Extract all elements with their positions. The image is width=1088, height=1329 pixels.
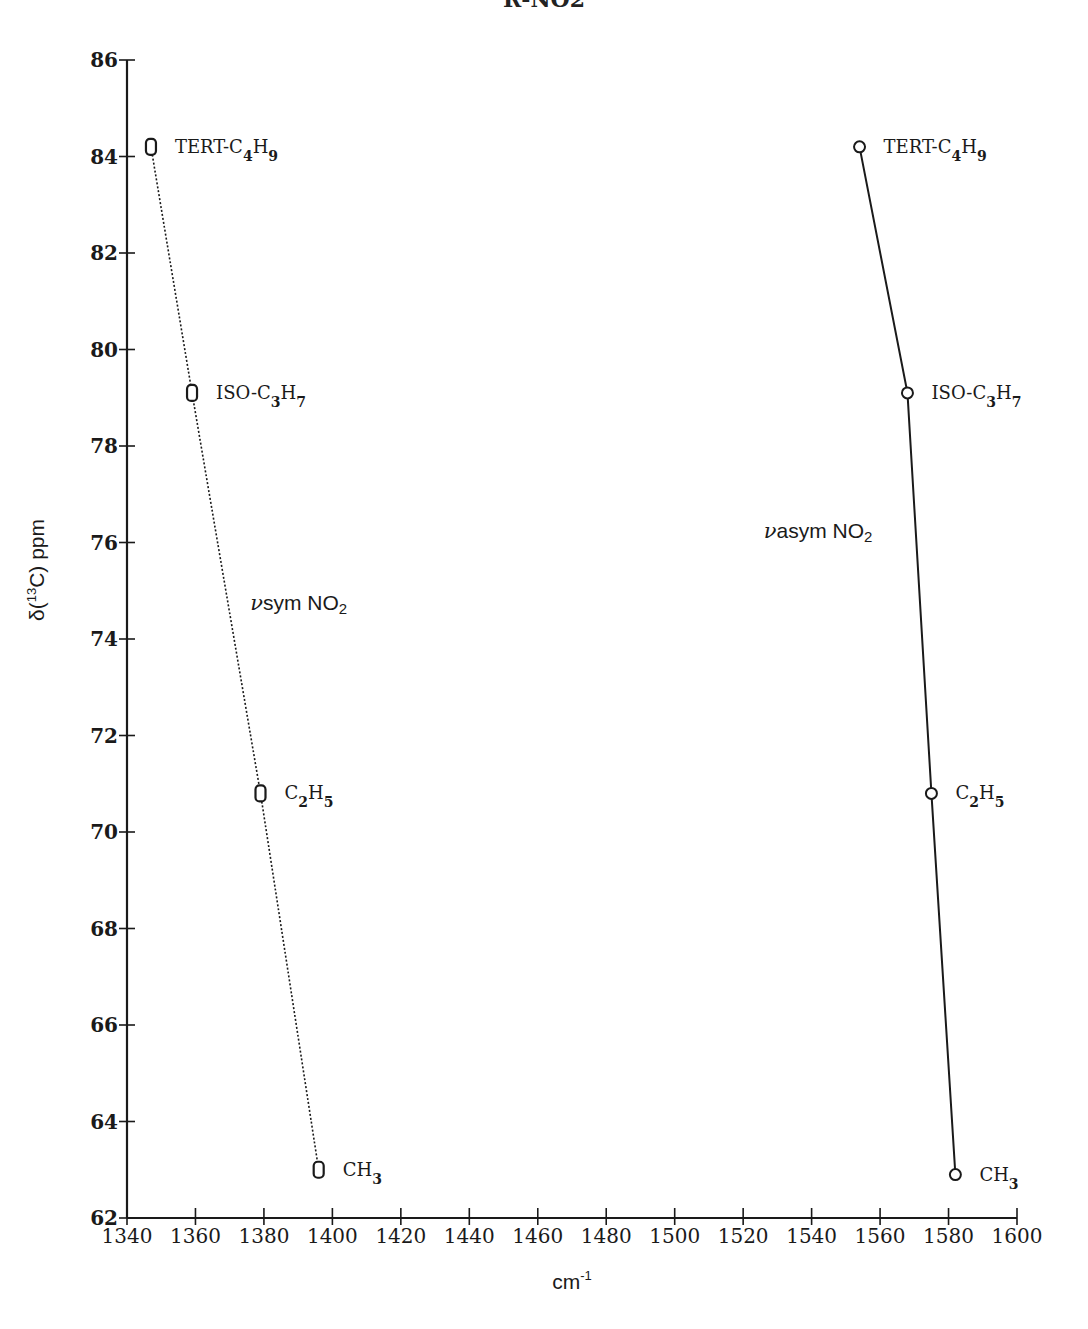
data-point-marker <box>146 139 156 155</box>
data-point-marker <box>902 387 913 398</box>
x-tick-label: 1560 <box>855 1224 906 1248</box>
data-point-label: TERT-C4H9 <box>175 136 278 164</box>
data-point-marker <box>256 785 266 801</box>
data-point-marker <box>314 1162 324 1178</box>
y-axis-title: δ(13C) ppm <box>24 519 48 621</box>
x-tick-label: 1520 <box>718 1224 769 1248</box>
y-tick-label: 80 <box>90 338 118 362</box>
data-point-label: ISO-C3H7 <box>931 382 1021 410</box>
x-tick-label: 1360 <box>170 1224 221 1248</box>
y-tick-label: 82 <box>90 241 118 265</box>
data-point-label: C2H5 <box>285 782 334 810</box>
chart-canvas: 6264666870727476788082848613401360138014… <box>0 0 1088 1329</box>
x-tick-label: 1400 <box>307 1224 358 1248</box>
y-tick-label: 68 <box>90 917 118 941</box>
series-line <box>860 147 956 1175</box>
series-sym: TERT-C4H9ISO-C3H7C2H5CH3 <box>146 136 382 1187</box>
x-axis-title: cm-1 <box>552 1268 592 1293</box>
y-tick-label: 66 <box>90 1013 118 1037</box>
y-tick-label: 70 <box>90 820 118 844</box>
y-tick-label: 86 <box>90 48 118 72</box>
data-point-marker <box>950 1169 961 1180</box>
x-tick-label: 1580 <box>923 1224 974 1248</box>
series-asym: TERT-C4H9ISO-C3H7C2H5CH3 <box>854 136 1021 1192</box>
axes: 6264666870727476788082848613401360138014… <box>90 48 1042 1248</box>
x-tick-label: 1600 <box>992 1224 1043 1248</box>
y-tick-label: 78 <box>90 434 118 458</box>
y-tick-label: 76 <box>90 531 118 555</box>
x-tick-label: 1440 <box>444 1224 495 1248</box>
data-point-marker <box>854 141 865 152</box>
data-point-marker <box>926 788 937 799</box>
series-line <box>151 147 319 1170</box>
y-tick-label: 72 <box>90 724 118 748</box>
x-tick-label: 1500 <box>649 1224 700 1248</box>
y-tick-label: 74 <box>90 627 118 651</box>
data-point-marker <box>187 385 197 401</box>
annotations: νsym NO2νasym NO2 <box>250 519 872 617</box>
data-point-label: TERT-C4H9 <box>884 136 987 164</box>
x-tick-label: 1540 <box>786 1224 837 1248</box>
data-point-label: CH3 <box>343 1159 382 1187</box>
data-point-label: ISO-C3H7 <box>216 382 306 410</box>
x-tick-label: 1380 <box>238 1224 289 1248</box>
data-point-label: CH3 <box>979 1164 1018 1192</box>
data-point-label: C2H5 <box>955 782 1004 810</box>
y-tick-label: 84 <box>90 145 118 169</box>
series-layer: TERT-C4H9ISO-C3H7C2H5CH3TERT-C4H9ISO-C3H… <box>146 136 1021 1192</box>
x-tick-label: 1420 <box>375 1224 426 1248</box>
series-annotation: νsym NO2 <box>250 591 347 617</box>
series-annotation: νasym NO2 <box>764 519 873 545</box>
x-tick-label: 1460 <box>512 1224 563 1248</box>
y-tick-label: 64 <box>90 1110 118 1134</box>
x-tick-label: 1480 <box>581 1224 632 1248</box>
x-tick-label: 1340 <box>102 1224 153 1248</box>
